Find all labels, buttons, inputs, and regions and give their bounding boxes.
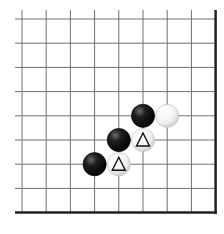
board-grid xyxy=(15,10,216,213)
white-stone[interactable] xyxy=(107,153,130,176)
black-stone[interactable] xyxy=(131,104,154,127)
black-stone[interactable] xyxy=(107,128,130,151)
white-stone[interactable] xyxy=(131,128,154,151)
go-board xyxy=(0,0,224,234)
black-stone[interactable] xyxy=(83,153,106,176)
board-edges xyxy=(15,10,217,214)
white-stone[interactable] xyxy=(156,104,179,127)
